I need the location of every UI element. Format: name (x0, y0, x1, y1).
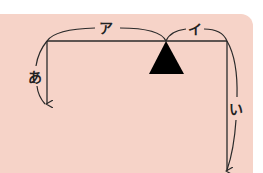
label-force-left: あ (28, 69, 42, 85)
fulcrum-triangle-icon (149, 41, 184, 74)
label-arm-right: イ (188, 21, 202, 37)
label-force-right: い (229, 101, 243, 117)
label-arm-left: ア (99, 20, 113, 36)
lever-diagram: ア イ あ い (0, 0, 263, 173)
